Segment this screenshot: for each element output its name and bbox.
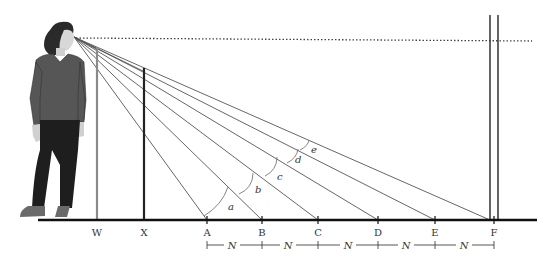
left-shoe — [20, 206, 45, 217]
label-b-point: B — [258, 227, 265, 238]
spacing-label-de: N — [401, 240, 412, 251]
right-shoe — [55, 206, 70, 217]
angle-label-c: c — [277, 171, 283, 182]
left-arm — [30, 62, 42, 126]
perspective-diagram: W X A B C D E F a b c d e N N N N N — [0, 0, 555, 262]
ray-b — [74, 37, 262, 220]
label-e-point: E — [431, 227, 438, 238]
ray-x — [74, 37, 145, 72]
ray-a — [74, 37, 207, 220]
arc-c — [265, 157, 277, 176]
label-c-point: C — [314, 227, 322, 238]
angle-label-e: e — [311, 144, 317, 155]
left-hand — [32, 124, 41, 142]
angle-arcs — [204, 140, 309, 216]
arc-e — [300, 140, 309, 150]
angle-label-b: b — [255, 184, 261, 195]
label-a-point: A — [202, 227, 211, 238]
observer-person — [20, 22, 86, 217]
spacing-label-ef: N — [459, 240, 470, 251]
far-double-line — [490, 15, 498, 221]
label-x: X — [140, 227, 148, 238]
spacing-label-cd: N — [343, 240, 354, 251]
sight-rays — [74, 37, 490, 220]
spacing-label-bc: N — [283, 240, 294, 251]
label-d-point: D — [374, 227, 382, 238]
arc-b — [239, 173, 253, 194]
angle-label-d: d — [295, 154, 301, 165]
spacing-label-ab: N — [227, 240, 238, 251]
label-f-point: F — [491, 227, 498, 238]
angle-label-a: a — [228, 201, 234, 212]
label-w: W — [92, 227, 103, 238]
arc-a — [204, 187, 228, 216]
horizon-line — [76, 38, 532, 41]
